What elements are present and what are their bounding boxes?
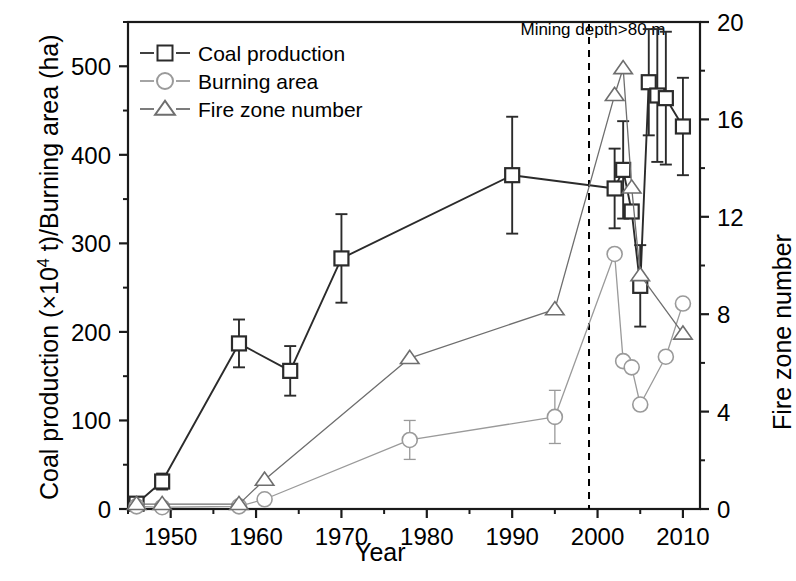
marker-square (642, 75, 656, 89)
marker-square (608, 181, 622, 195)
marker-square (616, 163, 630, 177)
y-left-tick-label: 200 (71, 319, 111, 346)
marker-square (283, 364, 297, 378)
marker-square (676, 119, 690, 133)
marker-square (158, 46, 173, 61)
x-tick-label: 2000 (571, 523, 624, 550)
marker-triangle (546, 302, 564, 315)
marker-circle (402, 432, 417, 447)
marker-triangle (631, 268, 649, 281)
marker-circle (624, 360, 639, 375)
marker-circle (607, 246, 622, 261)
y-right-tick-label: 0 (717, 496, 730, 523)
marker-square (334, 251, 348, 265)
marker-triangle (155, 101, 175, 115)
y-axis-right-title: Fire zone number (768, 234, 796, 430)
marker-triangle (400, 350, 418, 363)
marker-circle (675, 296, 690, 311)
x-tick-label: 2010 (656, 523, 709, 550)
marker-square (232, 336, 246, 350)
y-axis-left-title: Coal production (×104 t)/Burning area (h… (34, 34, 64, 500)
legend-label-fire-zone-number: Fire zone number (198, 98, 363, 121)
y-left-tick-label: 0 (98, 496, 111, 523)
y-left-tick-label: 400 (71, 142, 111, 169)
marker-triangle (605, 87, 623, 100)
marker-circle (658, 349, 673, 364)
y-right-tick-label: 12 (717, 204, 744, 231)
y-right-tick-label: 8 (717, 301, 730, 328)
legend-label-coal-production: Coal production (198, 42, 345, 65)
marker-triangle (674, 326, 692, 339)
legend-label-burning-area: Burning area (198, 70, 319, 93)
x-axis-title: Year (355, 538, 406, 567)
y-right-tick-label: 20 (717, 9, 744, 36)
y-right-tick-label: 16 (717, 106, 744, 133)
marker-circle (633, 397, 648, 412)
y-right-tick-label: 4 (717, 399, 730, 426)
marker-square (659, 91, 673, 105)
y-left-tick-label: 300 (71, 230, 111, 257)
marker-square (625, 204, 639, 218)
marker-circle (547, 409, 562, 424)
marker-square (155, 475, 169, 489)
marker-circle (257, 492, 272, 507)
x-tick-label: 1950 (144, 523, 197, 550)
x-tick-label: 1960 (229, 523, 282, 550)
marker-circle (157, 73, 173, 89)
x-tick-label: 1980 (400, 523, 453, 550)
x-tick-label: 1990 (485, 523, 538, 550)
marker-square (505, 168, 519, 182)
y-left-tick-label: 500 (71, 53, 111, 80)
y-left-tick-label: 100 (71, 407, 111, 434)
marker-triangle (614, 61, 632, 74)
